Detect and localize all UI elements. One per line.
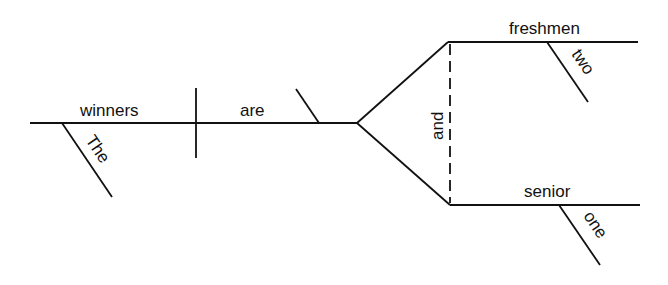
word-the: The bbox=[82, 132, 114, 167]
complement-divider bbox=[296, 89, 319, 123]
sentence-diagram: winners are The and freshmen two senior … bbox=[0, 0, 668, 285]
word-senior: senior bbox=[524, 182, 571, 201]
word-and: and bbox=[428, 112, 447, 140]
word-winners: winners bbox=[79, 101, 139, 120]
fork-upper bbox=[357, 42, 448, 123]
word-one: one bbox=[580, 208, 612, 242]
word-freshmen: freshmen bbox=[509, 19, 580, 38]
word-two: two bbox=[568, 46, 599, 79]
word-are: are bbox=[240, 101, 265, 120]
